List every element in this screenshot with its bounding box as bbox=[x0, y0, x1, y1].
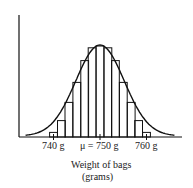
normal-curve bbox=[26, 45, 175, 135]
histogram-bar bbox=[112, 61, 120, 137]
histogram-bar bbox=[127, 102, 135, 137]
histogram-bars bbox=[50, 46, 151, 137]
histogram-bar bbox=[135, 121, 143, 137]
histogram-bar bbox=[65, 102, 73, 137]
x-axis-units: (grams) bbox=[82, 171, 113, 182]
histogram-bar bbox=[88, 48, 96, 137]
x-axis-label: Weight of bags bbox=[71, 159, 131, 170]
histogram-bar bbox=[96, 46, 104, 137]
histogram-bar bbox=[73, 82, 81, 137]
histogram-bar bbox=[119, 82, 127, 137]
tick-label-mean: μ = 750 g bbox=[80, 140, 119, 151]
histogram-bar bbox=[104, 48, 112, 137]
tick-label-740: 740 g bbox=[42, 140, 65, 151]
histogram-bar bbox=[81, 61, 89, 137]
histogram-bar bbox=[58, 121, 66, 137]
tick-label-760: 760 g bbox=[135, 140, 158, 151]
axes bbox=[19, 15, 182, 137]
